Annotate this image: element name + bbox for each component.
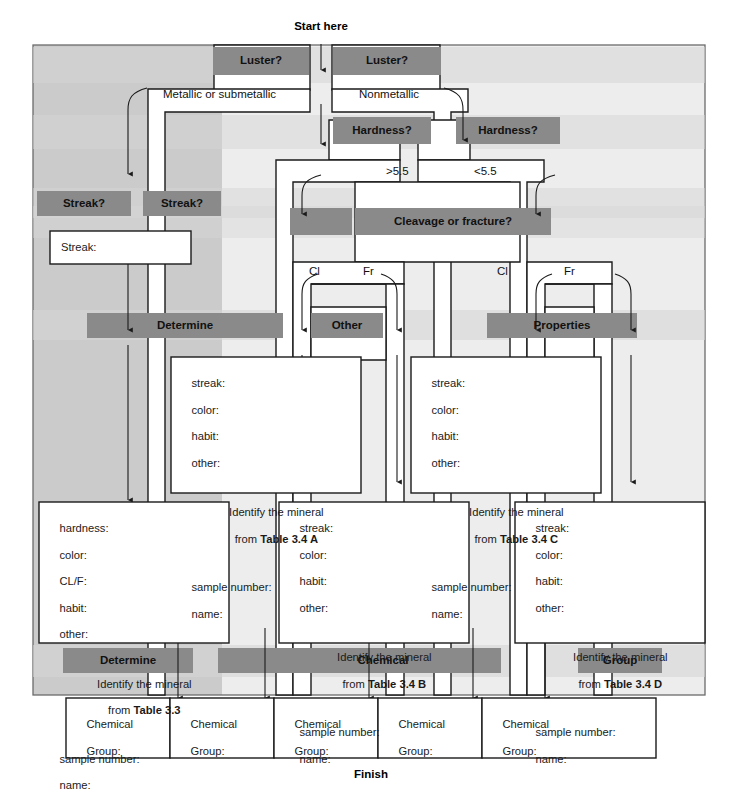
bar-label-determine: Determine — [87, 319, 283, 333]
identify-prefix: from — [578, 678, 603, 690]
chemical-group-cell-5: Chemical Group: — [490, 705, 549, 771]
bar-label-streak-left: Streak? — [37, 197, 131, 211]
field-habit: habit: — [535, 575, 562, 587]
streak-box-label: Streak: — [61, 241, 96, 254]
bar-label-hardness-right: Hardness? — [456, 124, 560, 138]
identify-line1: Identify the mineral — [97, 678, 192, 690]
field-other: other: — [191, 457, 220, 469]
field-color: color: — [299, 549, 326, 561]
branch-label-hardness-gt: >5.5 — [386, 165, 409, 179]
chemical-group-cell-4: Chemical Group: — [386, 705, 445, 771]
bar-label-luster-left: Luster? — [213, 54, 309, 68]
field-habit: habit: — [299, 575, 326, 587]
field-streak: streak: — [191, 377, 225, 389]
identify-prefix: from — [474, 533, 499, 545]
identify-instruction: Identify the mineral from Table 3.4 B — [287, 638, 463, 704]
cg-line1: Chemical — [294, 718, 341, 730]
field-streak: streak: — [535, 522, 569, 534]
branch-label-cl-right: Cl — [497, 265, 508, 279]
cg-line2: Group: — [294, 745, 328, 757]
cg-line2: Group: — [86, 745, 120, 757]
cg-line2: Group: — [190, 745, 224, 757]
branch-label-metallic: Metallic or submetallic — [163, 88, 276, 102]
field-color: color: — [59, 549, 86, 561]
branch-label-fr-left: Fr — [363, 265, 374, 279]
field-streak: streak: — [431, 377, 465, 389]
identify-table: Table 3.3 — [134, 704, 181, 716]
identify-instruction: Identify the mineral from Table 3.4 D — [523, 638, 699, 704]
field-other: other: — [299, 602, 328, 614]
bar-label-streak-right: Streak? — [143, 197, 221, 211]
bar-label-luster-right: Luster? — [333, 54, 441, 68]
cg-line2: Group: — [398, 745, 432, 757]
chemical-group-cell-1: Chemical Group: — [74, 705, 133, 771]
record-box-table-3-4-d: streak: color: habit: other: Identify th… — [523, 509, 699, 779]
cg-line1: Chemical — [190, 718, 237, 730]
field-cl-f: CL/F: — [59, 575, 86, 587]
flowchart-canvas: Start here Finish Luster? Luster? Metall… — [0, 0, 734, 797]
identify-prefix: from — [342, 678, 367, 690]
bar-label-hardness-left: Hardness? — [333, 124, 431, 138]
cg-line1: Chemical — [398, 718, 445, 730]
chemical-group-cell-3: Chemical Group: — [282, 705, 341, 771]
chemical-group-cell-2: Chemical Group: — [178, 705, 237, 771]
cg-line1: Chemical — [502, 718, 549, 730]
identify-table: Table 3.4 D — [604, 678, 662, 690]
field-color: color: — [535, 549, 562, 561]
identify-line1: Identify the mineral — [573, 651, 668, 663]
field-other: other: — [431, 457, 460, 469]
cg-line2: Group: — [502, 745, 536, 757]
field-hardness: hardness: — [59, 522, 108, 534]
field-habit: habit: — [191, 430, 218, 442]
branch-label-nonmetallic: Nonmetallic — [359, 88, 419, 102]
start-label: Start here — [271, 20, 371, 34]
bar-label-cleavage: Cleavage or fracture? — [355, 215, 551, 229]
branch-label-cl-left: Cl — [309, 265, 320, 279]
cg-line1: Chemical — [86, 718, 133, 730]
identify-line1: Identify the mineral — [337, 651, 432, 663]
identify-table: Table 3.4 B — [368, 678, 426, 690]
bar-label-properties: Properties — [487, 319, 637, 333]
identify-prefix: from — [235, 533, 260, 545]
field-habit: habit: — [431, 430, 458, 442]
branch-label-fr-right: Fr — [564, 265, 575, 279]
field-other: other: — [59, 628, 88, 640]
field-other: other: — [535, 602, 564, 614]
field-streak: streak: — [299, 522, 333, 534]
field-color: color: — [431, 404, 458, 416]
field-habit: habit: — [59, 602, 86, 614]
field-color: color: — [191, 404, 218, 416]
field-name: name: — [59, 779, 90, 791]
branch-label-hardness-lt: <5.5 — [474, 165, 497, 179]
bar-label-other: Other — [311, 319, 383, 333]
